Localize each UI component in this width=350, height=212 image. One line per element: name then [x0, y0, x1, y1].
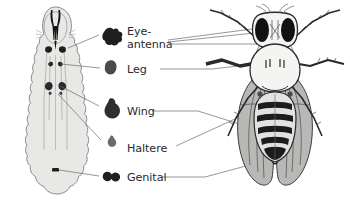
- label-leg: Leg: [127, 63, 147, 76]
- larva-disc-haltere-right: [59, 92, 62, 95]
- adult-thorax: [250, 44, 300, 92]
- larva-disc-genital: [52, 168, 59, 172]
- larva-disc-haltere-left: [49, 92, 52, 95]
- drosophila-imaginal-disc-figure: Eye- antenna Leg Wing Haltere Genital: [0, 0, 350, 212]
- adult-haltere-left: [257, 91, 262, 96]
- adult-eye-right: [281, 18, 295, 42]
- label-wing: Wing: [127, 105, 155, 118]
- adult-eye-left: [255, 18, 269, 42]
- label-eye-antenna-line1: Eye-: [127, 25, 151, 38]
- label-eye-antenna-line2: antenna: [127, 38, 173, 51]
- label-genital: Genital: [127, 171, 166, 184]
- adult-haltere-right: [287, 91, 292, 96]
- label-haltere: Haltere: [127, 142, 167, 155]
